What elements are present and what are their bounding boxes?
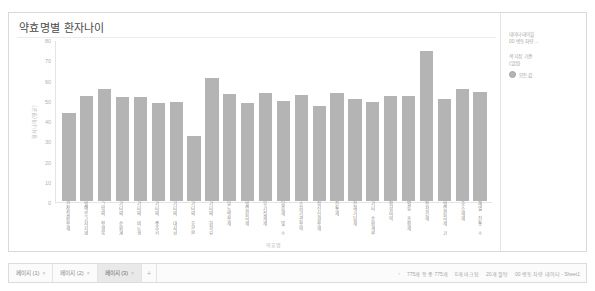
close-icon[interactable]: × (131, 270, 134, 276)
collapse-chevron-icon[interactable]: ‹ (398, 270, 400, 276)
bar-slot[interactable] (435, 41, 453, 201)
title-divider (17, 37, 496, 38)
bar[interactable] (295, 95, 308, 201)
bar-series[interactable] (57, 41, 492, 201)
x-axis-label-slot[interactable]: 기타의 중추신경용약 (148, 201, 166, 237)
bar[interactable] (187, 136, 200, 201)
bar-slot[interactable] (453, 41, 471, 201)
x-axis-label: 기타의 호르몬제 (190, 201, 195, 235)
bar[interactable] (473, 92, 486, 201)
bar-slot[interactable] (310, 41, 328, 201)
x-axis-label-slot[interactable]: 기타의 화학요법제 (202, 201, 220, 237)
bar[interactable] (330, 93, 343, 201)
bar[interactable] (402, 96, 415, 201)
bar-chart-visualization: 약효명별 환자나이 환자나이(평균) 01020304050607080 간장질… (8, 12, 587, 252)
bar[interactable] (366, 102, 379, 201)
x-axis-label-slot[interactable]: 호소제제 (453, 201, 471, 237)
close-icon[interactable]: × (42, 270, 45, 276)
bar[interactable] (456, 89, 469, 201)
chart-area: 약효명별 환자나이 환자나이(평균) 01020304050607080 간장질… (9, 13, 500, 251)
y-axis-tick: 20 (45, 160, 51, 166)
x-axis-label-slot[interactable]: 기타의 비뇨생식기관 및 항문용약 (130, 201, 148, 237)
x-axis-label-slot[interactable]: 진해거담제 (345, 201, 363, 237)
bar-slot[interactable] (132, 41, 150, 201)
bar-slot[interactable] (418, 41, 436, 201)
bar-slot[interactable] (346, 41, 364, 201)
bar[interactable] (205, 78, 218, 201)
x-axis-label-slot[interactable]: 혈압강하제 (238, 201, 256, 237)
bar[interactable] (170, 102, 183, 201)
bar[interactable] (98, 89, 111, 201)
bar-slot[interactable] (149, 41, 167, 201)
add-page-button[interactable]: + (142, 264, 157, 282)
bar-slot[interactable] (221, 41, 239, 201)
x-axis-label-slot[interactable]: 기타의 순환계용약 (112, 201, 130, 237)
bar-slot[interactable] (328, 41, 346, 201)
page-tabs[interactable]: 페이지 (1)×페이지 (2)×페이지 (3)× (9, 264, 142, 282)
bar[interactable] (223, 94, 236, 201)
bar[interactable] (152, 103, 165, 201)
legend-data-table-head: 데이터 테이블 (509, 31, 580, 38)
bar-slot[interactable] (239, 41, 257, 201)
bar[interactable] (134, 97, 147, 201)
bar-slot[interactable] (275, 41, 293, 201)
close-icon[interactable]: × (87, 270, 90, 276)
x-axis-label-slot[interactable]: 기타의 대사성의약품 (166, 201, 184, 237)
x-axis-label: 무기질제제 (262, 201, 267, 226)
bar[interactable] (277, 101, 290, 201)
legend-group-color-by[interactable]: 색 지정 기준: (없음) 모든 값 (509, 53, 580, 78)
page-tab[interactable]: 페이지 (1)× (9, 264, 53, 282)
x-axis-labels[interactable]: 간장질환용제혈액응고저지제그밖의 항생물질제제기타의 순환계용약기타의 비뇨생식… (55, 201, 492, 237)
bar[interactable] (116, 97, 129, 201)
bar-slot[interactable] (400, 41, 418, 201)
x-axis-label-slot[interactable]: 항전간제 (417, 201, 435, 237)
y-axis-tick: 0 (48, 200, 51, 206)
bar[interactable] (80, 96, 93, 201)
x-axis-label-slot[interactable]: 그밖의 항생물질제제 (94, 201, 112, 237)
legend-group-data-table[interactable]: 데이터 테이블 00 병동 차량 ... (509, 31, 580, 46)
bar-slot[interactable] (257, 41, 275, 201)
bar-slot[interactable] (292, 41, 310, 201)
bar-slot[interactable] (382, 41, 400, 201)
bar[interactable] (348, 99, 361, 201)
y-axis[interactable]: 환자나이(평균) 01020304050607080 (9, 41, 55, 203)
bar[interactable] (438, 99, 451, 201)
page-tab[interactable]: 페이지 (2)× (53, 264, 97, 282)
x-axis-label-slot[interactable]: 혈압강하제 기타 (435, 201, 453, 237)
x-axis-label-slot[interactable]: 진통제 (327, 201, 345, 237)
x-axis-label-slot[interactable]: 담즙제 및 소화기관용약 (273, 201, 291, 237)
x-axis-label-slot[interactable]: 합성마약 (381, 201, 399, 237)
status-data-source: 00 병동 차량 데이터 - Sheet1 (515, 270, 580, 277)
bar[interactable] (420, 51, 433, 201)
bar-slot[interactable] (96, 41, 114, 201)
x-axis-label-slot[interactable]: 당뇨병용제 (220, 201, 238, 237)
bar-slot[interactable] (114, 41, 132, 201)
x-axis-label-slot[interactable]: 소화기관용약 (291, 201, 309, 237)
status-bar: ‹ 775개 항 중 775개 0개 마크됨 20개 필텅 00 병동 차량 데… (392, 264, 586, 282)
bar-slot[interactable] (364, 41, 382, 201)
bar-slot[interactable] (167, 41, 185, 201)
x-axis-label-slot[interactable]: 간장질환용제 (58, 201, 76, 237)
x-axis-label-slot[interactable]: 혈액응고저지제 (76, 201, 94, 237)
x-axis-label-slot[interactable]: 무기질제제 (255, 201, 273, 237)
bar-slot[interactable] (60, 41, 78, 201)
bar-slot[interactable] (78, 41, 96, 201)
status-marked-count: 0개 마크됨 (455, 270, 479, 277)
x-axis-label-slot[interactable]: 기타의 호르몬제 (184, 201, 202, 237)
x-axis-label-slot[interactable]: 기타 순환계용약 (363, 201, 381, 237)
page-tab-label: 페이지 (1) (16, 269, 39, 277)
bar[interactable] (384, 96, 397, 201)
x-axis-label: 당뇨병용제 (226, 201, 231, 226)
bar[interactable] (62, 113, 75, 201)
bar[interactable] (313, 106, 326, 201)
x-axis-label-slot[interactable]: 별류 조합제 (399, 201, 417, 237)
x-axis-label-slot[interactable]: 해열 진통 소염제 (471, 201, 489, 237)
bar-slot[interactable] (471, 41, 489, 201)
page-tab[interactable]: 페이지 (3)× (98, 264, 142, 282)
bar[interactable] (259, 93, 272, 201)
bar-slot[interactable] (185, 41, 203, 201)
bar[interactable] (241, 103, 254, 201)
legend-item[interactable]: 모든 값 (509, 71, 580, 78)
x-axis-label-slot[interactable]: 정신신경용제 (309, 201, 327, 237)
bar-slot[interactable] (203, 41, 221, 201)
